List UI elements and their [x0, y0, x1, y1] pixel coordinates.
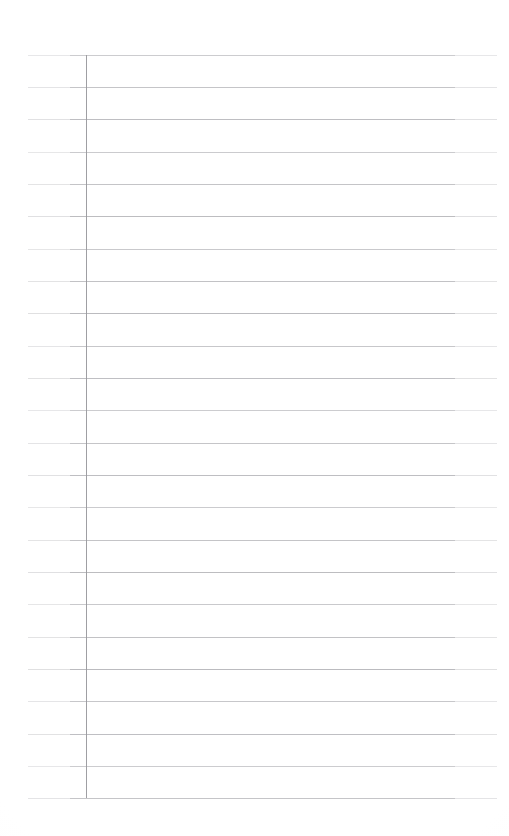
- rule-line: [28, 475, 497, 476]
- rule-line: [28, 119, 497, 120]
- rule-line: [28, 669, 497, 670]
- rule-line: [28, 313, 497, 314]
- rule-line: [28, 604, 497, 605]
- rule-line: [28, 152, 497, 153]
- ruled-lines-group: [0, 0, 509, 836]
- rule-line: [28, 216, 497, 217]
- rule-line: [28, 734, 497, 735]
- rule-line: [28, 184, 497, 185]
- rule-line: [28, 572, 497, 573]
- rule-line: [28, 55, 497, 56]
- rule-line: [28, 507, 497, 508]
- rule-line: [28, 249, 497, 250]
- rule-line: [28, 637, 497, 638]
- rule-line: [28, 410, 497, 411]
- scanned-page: [0, 0, 509, 836]
- rule-line: [28, 346, 497, 347]
- rule-line: [28, 443, 497, 444]
- rule-line: [28, 281, 497, 282]
- rule-line: [28, 378, 497, 379]
- vertical-margin-rule: [86, 55, 87, 798]
- rule-line: [28, 540, 497, 541]
- rule-line: [28, 701, 497, 702]
- rule-line: [28, 798, 497, 799]
- rule-line: [28, 87, 497, 88]
- rule-line: [28, 766, 497, 767]
